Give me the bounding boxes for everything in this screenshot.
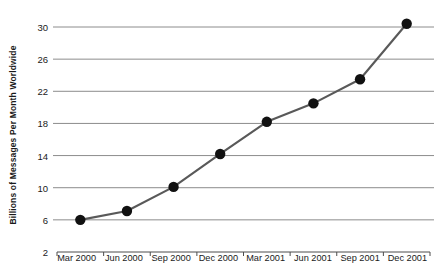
data-point-marker: Sep 2000: 10.1 [168,182,178,192]
y-axis-tick-labels: 26101418222630 [22,0,48,270]
data-point-marker: Jun 2000: 7.1 [122,206,132,216]
data-point-marker: Mar 2001: 18.2 [262,117,272,127]
y-axis-tick-label: 30 [22,22,48,33]
plot-svg: Mar 2000: 6Jun 2000: 7.1Sep 2000: 10.1De… [53,0,436,270]
data-point-marker: Dec 2000: 14.2 [215,149,225,159]
x-axis-tick-label: Sep 2001 [337,251,384,267]
series-polyline [80,24,406,220]
data-point-markers: Mar 2000: 6Jun 2000: 7.1Sep 2000: 10.1De… [75,19,412,225]
data-point-marker: Jun 2001: 20.5 [308,98,318,108]
x-axis-tick-label: Mar 2001 [242,251,289,267]
y-axis-tick-label: 18 [22,118,48,129]
y-axis-tick-label: 2 [22,247,48,258]
y-axis-tick-label: 10 [22,182,48,193]
data-point-marker: Sep 2001: 23.5 [355,74,365,84]
data-point-marker: Mar 2000: 6 [75,215,85,225]
gridlines [53,27,434,220]
y-axis-tick-label: 14 [22,150,48,161]
x-axis-tick-label: Jun 2000 [100,251,147,267]
x-axis-tick-label: Sep 2000 [148,251,195,267]
y-axis-tick-label: 22 [22,86,48,97]
x-axis-tick-labels: Mar 2000Jun 2000Sep 2000Dec 2000Mar 2001… [53,251,431,267]
x-axis-tick-label: Mar 2000 [53,251,100,267]
x-axis-tick-label: Dec 2000 [195,251,242,267]
series-line [80,24,406,220]
x-axis-tick-label: Jun 2001 [289,251,336,267]
y-axis-tick-label: 26 [22,54,48,65]
plot-area: Mar 2000: 6Jun 2000: 7.1Sep 2000: 10.1De… [53,0,436,270]
x-axis-tick-label: Dec 2001 [384,251,431,267]
line-chart: Billions of Messages Per Month Worldwide… [0,0,436,270]
data-point-marker: Dec 2001: 30.4 [401,19,411,29]
y-axis-tick-label: 6 [22,214,48,225]
